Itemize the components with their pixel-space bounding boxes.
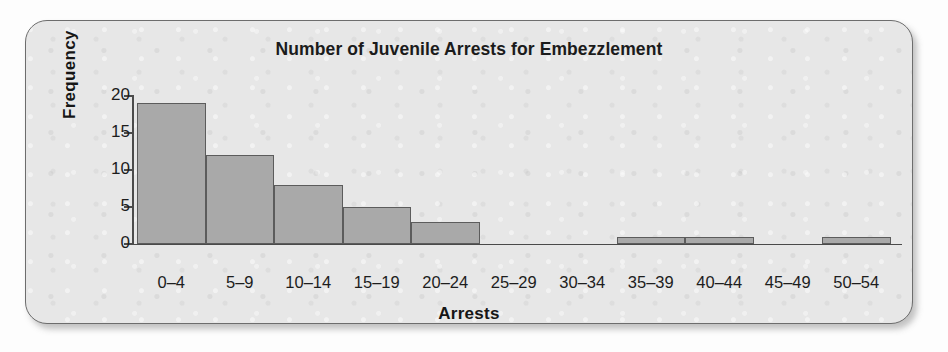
x-axis-tick-label: 40–44 [682, 273, 757, 292]
y-axis-tick-label: 15 [70, 122, 130, 142]
bar [685, 237, 754, 244]
chart-title: Number of Juvenile Arrests for Embezzlem… [26, 39, 912, 60]
x-axis-tick-label: 25–29 [477, 273, 552, 292]
bar [343, 207, 412, 244]
x-axis-tick-labels: 0–45–910–1415–1920–2425–2930–3435–3940–4… [137, 273, 902, 297]
bar [411, 222, 480, 244]
bar [274, 185, 343, 244]
bar [206, 155, 275, 244]
x-axis-tick-label: 35–39 [614, 273, 689, 292]
bar [822, 237, 891, 244]
x-axis-tick-label: 20–24 [408, 273, 483, 292]
y-axis-tick-label: 0 [70, 233, 130, 253]
x-axis-tick-label: 45–49 [751, 273, 826, 292]
plot-area: 05101520 [132, 96, 902, 244]
y-axis-tick-label: 20 [70, 85, 130, 105]
x-axis-tick-label: 10–14 [271, 273, 346, 292]
x-axis-tick-label: 0–4 [134, 273, 209, 292]
x-axis-title: Arrests [26, 304, 912, 324]
x-axis-tick-label: 5–9 [203, 273, 278, 292]
bar [617, 237, 686, 244]
bar [137, 103, 206, 244]
y-axis-tick-label: 10 [70, 159, 130, 179]
x-axis-tick-label: 15–19 [340, 273, 415, 292]
x-axis-tick-label: 50–54 [819, 273, 894, 292]
histogram-screenshot: Number of Juvenile Arrests for Embezzlem… [0, 0, 948, 352]
y-axis-tick-label: 5 [70, 196, 130, 216]
x-axis-tick-label: 30–34 [545, 273, 620, 292]
y-axis-title: Frequency [60, 30, 80, 119]
bar-series [137, 96, 902, 244]
figure-panel: Number of Juvenile Arrests for Embezzlem… [25, 20, 913, 324]
